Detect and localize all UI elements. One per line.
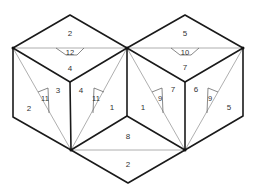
bottom-lower-label: 2	[126, 160, 131, 169]
small-triangles	[38, 48, 218, 113]
left-right-triangle-label: 11	[92, 94, 100, 103]
right-top-lower-label: 7	[183, 63, 188, 72]
right-right-outer-label: 5	[227, 103, 232, 112]
right-top-upper-label: 5	[183, 29, 188, 38]
polyhedron-net-diagram: 2 12 4 2 3 11 4 11 1 5 10 7 1 9 7 6 9 5 …	[0, 0, 255, 195]
left-top-upper-label: 2	[68, 29, 73, 38]
right-right-inner-label: 6	[194, 85, 199, 94]
bottom-upper-label: 8	[126, 132, 131, 141]
left-left-outer-label: 2	[27, 104, 32, 113]
right-cube-labels: 5 10 7 1 9 7 6 9 5	[141, 29, 232, 112]
right-right-triangle-label: 9	[208, 94, 212, 103]
right-left-triangle-label: 9	[158, 94, 162, 103]
right-top-triangle-label: 10	[181, 48, 189, 57]
left-top-triangle-label: 12	[66, 48, 74, 57]
right-left-outer-label: 1	[141, 103, 146, 112]
left-right-outer-label: 1	[110, 103, 115, 112]
left-top-lower-label: 4	[68, 64, 73, 73]
left-left-inner-label: 3	[56, 86, 61, 95]
left-left-triangle-label: 11	[41, 94, 49, 103]
right-left-inner-label: 7	[171, 85, 176, 94]
left-right-inner-label: 4	[79, 86, 84, 95]
